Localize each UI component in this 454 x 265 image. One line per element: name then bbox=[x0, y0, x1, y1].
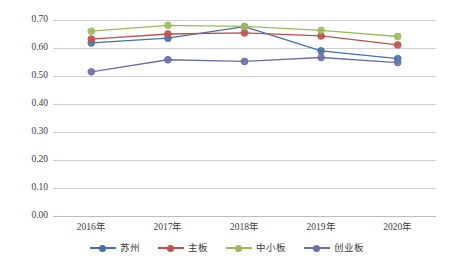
line-chart: 0.700.600.500.400.300.200.100.00 2016年20… bbox=[0, 0, 454, 265]
data-point bbox=[318, 54, 325, 61]
data-point bbox=[165, 56, 172, 63]
legend-item[interactable]: 苏州 bbox=[90, 243, 140, 253]
data-point bbox=[394, 42, 401, 49]
legend-item[interactable]: 主板 bbox=[158, 243, 208, 253]
legend-marker-icon bbox=[304, 243, 330, 253]
data-point bbox=[165, 22, 172, 29]
y-axis-tick-label: 0.70 bbox=[6, 15, 48, 25]
x-axis-tick-label: 2018年 bbox=[215, 223, 275, 233]
legend-label: 苏州 bbox=[120, 243, 140, 253]
series-layer bbox=[53, 20, 436, 216]
y-axis-tick-label: 0.00 bbox=[6, 211, 48, 221]
data-point bbox=[318, 27, 325, 34]
y-axis-tick-label: 0.20 bbox=[6, 155, 48, 165]
legend-marker-icon bbox=[90, 243, 116, 253]
data-point bbox=[318, 47, 325, 54]
gridline bbox=[53, 216, 436, 217]
data-point bbox=[241, 23, 248, 30]
plot-area bbox=[53, 20, 436, 216]
y-axis-tick-label: 0.60 bbox=[6, 43, 48, 53]
data-point bbox=[88, 36, 95, 43]
y-axis-tick-label: 0.30 bbox=[6, 127, 48, 137]
y-axis-tick-label: 0.50 bbox=[6, 71, 48, 81]
y-axis-tick-label: 0.10 bbox=[6, 183, 48, 193]
legend-item[interactable]: 创业板 bbox=[304, 243, 364, 253]
legend-item[interactable]: 中小板 bbox=[226, 243, 286, 253]
legend-label: 中小板 bbox=[256, 243, 286, 253]
legend-marker-icon bbox=[158, 243, 184, 253]
data-point bbox=[394, 59, 401, 66]
x-axis-tick-label: 2016年 bbox=[61, 223, 121, 233]
x-axis-tick-label: 2019年 bbox=[291, 223, 351, 233]
data-point bbox=[241, 29, 248, 36]
data-point bbox=[394, 33, 401, 40]
data-point bbox=[88, 68, 95, 75]
data-point bbox=[88, 28, 95, 35]
legend-label: 主板 bbox=[188, 243, 208, 253]
y-axis-tick-label: 0.40 bbox=[6, 99, 48, 109]
x-axis-tick-label: 2020年 bbox=[368, 223, 428, 233]
x-axis-tick-label: 2017年 bbox=[138, 223, 198, 233]
data-point bbox=[165, 31, 172, 38]
chart-legend: 苏州主板中小板创业板 bbox=[0, 243, 454, 253]
data-point bbox=[241, 58, 248, 65]
legend-marker-icon bbox=[226, 243, 252, 253]
legend-label: 创业板 bbox=[334, 243, 364, 253]
